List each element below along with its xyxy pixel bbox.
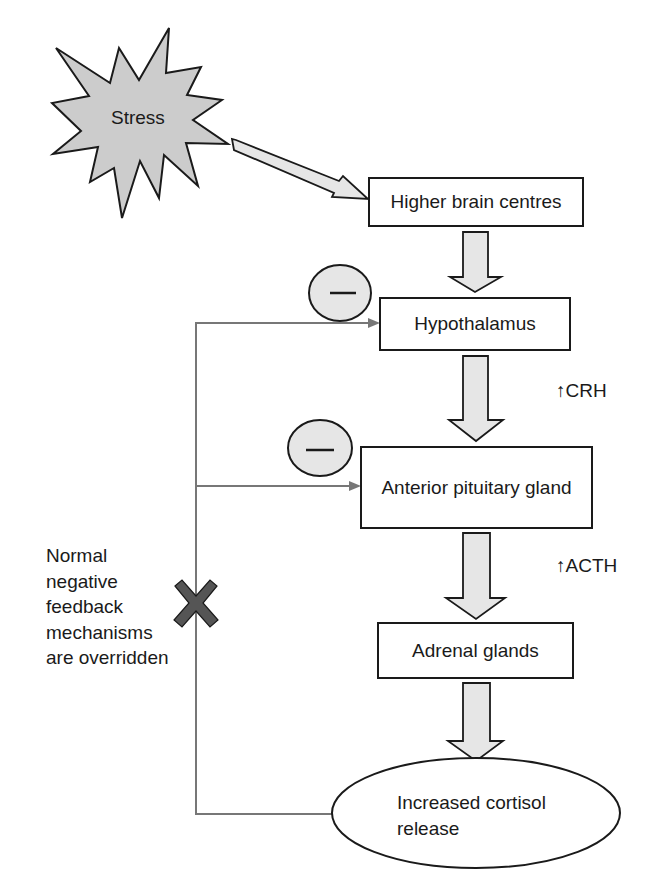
stress-label: Stress: [111, 107, 165, 129]
arrow-pituitary-to-adrenal: [446, 533, 505, 619]
arrow-adrenal-to-cortisol: [448, 683, 503, 761]
node-label: Higher brain centres: [390, 191, 561, 213]
stress-arrow: [232, 139, 368, 199]
arrow-higher-to-hypothalamus: [450, 232, 501, 292]
feedback-note-line: negative: [46, 569, 169, 595]
feedback-lines: [196, 323, 370, 814]
cortisol-label: Increased cortisol release: [397, 790, 546, 842]
feedback-note-line: feedback: [46, 594, 169, 620]
node-label: Hypothalamus: [414, 313, 535, 335]
cortisol-label-line1: Increased cortisol: [397, 790, 546, 816]
node-adrenal-glands: Adrenal glands: [377, 622, 574, 679]
feedback-note: Normal negative feedback mechanisms are …: [46, 543, 169, 671]
feedback-note-line: Normal: [46, 543, 169, 569]
acth-label: ↑ACTH: [556, 554, 617, 578]
cortisol-label-line2: release: [397, 816, 546, 842]
inhibit-circle-pituitary: [288, 420, 352, 476]
feedback-note-line: are overridden: [46, 645, 169, 671]
inhibit-circle-hypothalamus: [309, 265, 371, 321]
node-higher-brain-centres: Higher brain centres: [368, 177, 584, 227]
feedback-note-line: mechanisms: [46, 620, 169, 646]
hpa-diagram: [0, 0, 653, 889]
node-label: Anterior pituitary gland: [381, 477, 571, 499]
node-anterior-pituitary: Anterior pituitary gland: [360, 446, 593, 529]
arrow-hypothalamus-to-pituitary: [449, 356, 503, 441]
node-hypothalamus: Hypothalamus: [379, 297, 571, 351]
node-label: Adrenal glands: [412, 640, 539, 662]
crh-label: ↑CRH: [556, 379, 607, 403]
